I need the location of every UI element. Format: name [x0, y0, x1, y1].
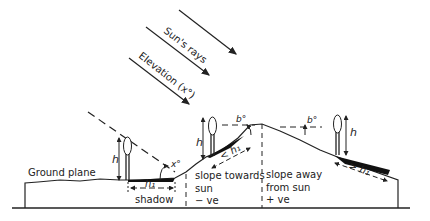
elevation-angle-label: x° [170, 159, 181, 169]
height-label: h [350, 126, 357, 139]
elevation-label: Elevation (x°) [137, 50, 198, 101]
slope-angle-right-label: b° [307, 115, 317, 125]
slope-away-label: from sun [266, 182, 310, 193]
shadow-label: shadow [135, 194, 173, 205]
height-label: h [112, 153, 119, 166]
shadow-away-label: > h₁ [347, 160, 371, 178]
slope-away-label: slope away [266, 169, 322, 180]
slope-towards-sign: − ve [195, 195, 219, 206]
terrain-shadow-diagram: Sun's rays Elevation (x°) h [0, 0, 430, 221]
diagram-svg: Sun's rays Elevation (x°) h [0, 0, 430, 221]
tree-icon [124, 137, 132, 180]
shadow-flat-label: h₁ [145, 178, 155, 189]
slope-towards-label: sun [195, 183, 213, 194]
tree-icon [209, 117, 217, 156]
slope-away-sign: + ve [266, 194, 290, 205]
slope-angle-left-label: b° [236, 114, 246, 124]
tree-icon [334, 115, 342, 155]
slope-towards-label: slope towards [195, 170, 265, 181]
elevation-angle-arc [160, 166, 168, 180]
height-label: h [196, 136, 203, 149]
ground-plane-label: Ground plane [28, 167, 96, 178]
